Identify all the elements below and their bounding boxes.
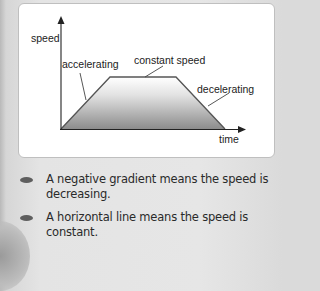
decelerating-label: decelerating (197, 83, 254, 95)
bullet-list: A negative gradient means the speed is d… (20, 172, 280, 248)
bullet-icon (20, 215, 33, 221)
bullet-text: A horizontal line means the speed is con… (46, 210, 248, 239)
bullet-item: A horizontal line means the speed is con… (20, 210, 280, 240)
bullet-text: A negative gradient means the speed is d… (46, 172, 268, 201)
bullet-icon (20, 177, 33, 183)
y-axis-label: speed (31, 32, 60, 44)
accelerating-leader (80, 73, 86, 100)
x-axis-arrow-icon (238, 126, 246, 133)
constant-leader (145, 66, 163, 77)
y-axis-arrow-icon (58, 16, 65, 24)
bullet-item: A negative gradient means the speed is d… (20, 172, 280, 202)
x-axis-label: time (219, 133, 239, 145)
constant-speed-label: constant speed (134, 54, 205, 66)
accelerating-label: accelerating (62, 58, 119, 70)
